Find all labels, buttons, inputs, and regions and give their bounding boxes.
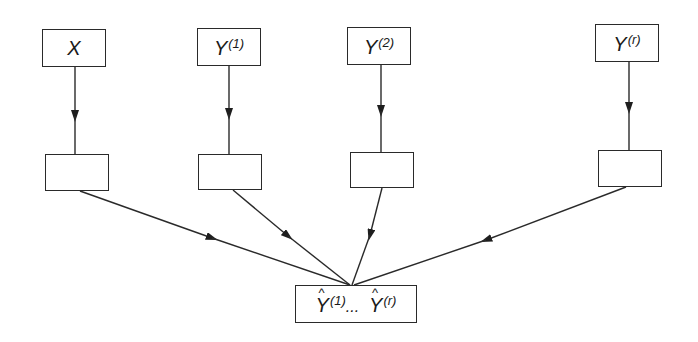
output-first-label: Y [316, 295, 329, 315]
node-y1-label: Y [214, 37, 227, 59]
node-y2-label: Y [364, 36, 377, 58]
output-first-superscript: (1) [330, 293, 346, 308]
intermediate-box-1 [45, 154, 109, 191]
edge-h1-output [80, 191, 212, 238]
output-ellipsis: ... [346, 298, 359, 315]
node-y1: Y(1) [197, 28, 261, 66]
node-y1-superscript: (1) [228, 36, 244, 51]
node-yr-label: Y [613, 33, 626, 55]
intermediate-box-4 [598, 150, 662, 187]
node-yr: Y(r) [595, 24, 659, 62]
node-y2: Y(2) [347, 27, 411, 65]
edge-h3-output [370, 188, 382, 235]
output-last-label: Y [369, 295, 382, 315]
intermediate-box-2 [198, 154, 262, 190]
node-y2-superscript: (2) [378, 35, 394, 50]
diagram-canvas: X Y(1) Y(2) Y(r) Y(1)...Y(r) [0, 0, 698, 342]
intermediate-box-3 [350, 152, 414, 188]
node-x: X [42, 29, 106, 67]
edge-h2-output [233, 190, 288, 236]
output-last-superscript: (r) [383, 293, 396, 308]
node-yr-superscript: (r) [628, 32, 641, 47]
node-x-label: X [67, 37, 80, 59]
edge-h4-output [486, 187, 626, 240]
output-node: Y(1)...Y(r) [295, 285, 417, 323]
